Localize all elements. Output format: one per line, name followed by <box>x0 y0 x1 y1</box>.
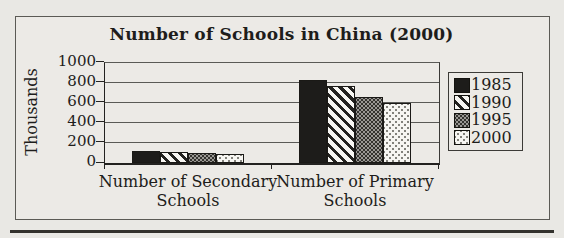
legend-item-2000: 2000 <box>454 130 522 146</box>
y-tick-mark-400 <box>96 121 104 122</box>
bar-1985-category-0 <box>132 151 160 164</box>
legend-swatch-diagonal-stripes <box>454 95 470 110</box>
plot-area <box>104 62 440 165</box>
legend-label-2000: 2000 <box>471 130 512 146</box>
x-tick-mark-2 <box>438 164 439 169</box>
category-label-primary-schools: Number of Primary Schools <box>263 172 447 210</box>
bottom-rule <box>10 230 554 233</box>
y-tick-label-400: 400 <box>38 113 96 130</box>
legend-label-1990: 1990 <box>471 95 512 111</box>
y-tick-mark-200 <box>96 141 104 142</box>
y-tick-label-800: 800 <box>38 73 96 90</box>
y-tick-mark-800 <box>96 81 104 82</box>
bar-1990-category-0 <box>160 152 188 163</box>
bar-1995-category-1 <box>355 97 383 163</box>
legend-swatch-dark-checker <box>454 113 470 128</box>
legend-item-1995: 1995 <box>454 112 522 128</box>
y-tick-mark-1000 <box>96 61 104 62</box>
chart-title: Number of Schools in China (2000) <box>15 24 548 44</box>
y-tick-label-600: 600 <box>38 93 96 110</box>
bar-1990-category-1 <box>327 86 355 163</box>
bar-2000-category-1 <box>383 103 411 163</box>
scanned-chart-page: Number of Schools in China (2000) Thousa… <box>0 0 564 238</box>
y-tick-label-200: 200 <box>38 133 96 150</box>
legend-swatch-light-dots <box>454 130 470 145</box>
x-tick-mark-1 <box>271 164 272 169</box>
category-label-secondary-schools: Number of Secondary Schools <box>96 172 280 210</box>
legend-item-1985: 1985 <box>454 77 522 93</box>
y-tick-mark-0 <box>96 162 104 163</box>
y-tick-label-1000: 1000 <box>38 53 96 70</box>
gridline-800 <box>105 82 439 83</box>
bar-1985-category-1 <box>299 80 327 164</box>
legend-label-1985: 1985 <box>471 77 512 93</box>
bar-1995-category-0 <box>188 153 216 163</box>
bar-2000-category-0 <box>216 154 244 163</box>
y-tick-mark-600 <box>96 101 104 102</box>
y-tick-label-0: 0 <box>38 153 96 170</box>
x-tick-mark-0 <box>104 164 105 169</box>
legend-swatch-solid-black <box>454 78 470 93</box>
legend: 1985199019952000 <box>448 72 523 151</box>
legend-label-1995: 1995 <box>471 112 512 128</box>
legend-item-1990: 1990 <box>454 95 522 111</box>
